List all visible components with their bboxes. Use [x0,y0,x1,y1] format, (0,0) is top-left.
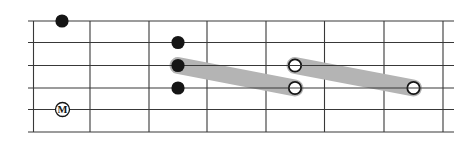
fretted-note-dot [171,36,184,49]
slide-bar [178,66,295,89]
fretted-note-dot [171,59,184,72]
slide-bar [295,66,414,89]
fretboard-svg: M [0,0,473,142]
fretboard-diagram: M [0,0,473,142]
fretted-note-dot [171,81,184,94]
fretted-note-dot [55,14,68,27]
marker-label: M [58,104,68,115]
